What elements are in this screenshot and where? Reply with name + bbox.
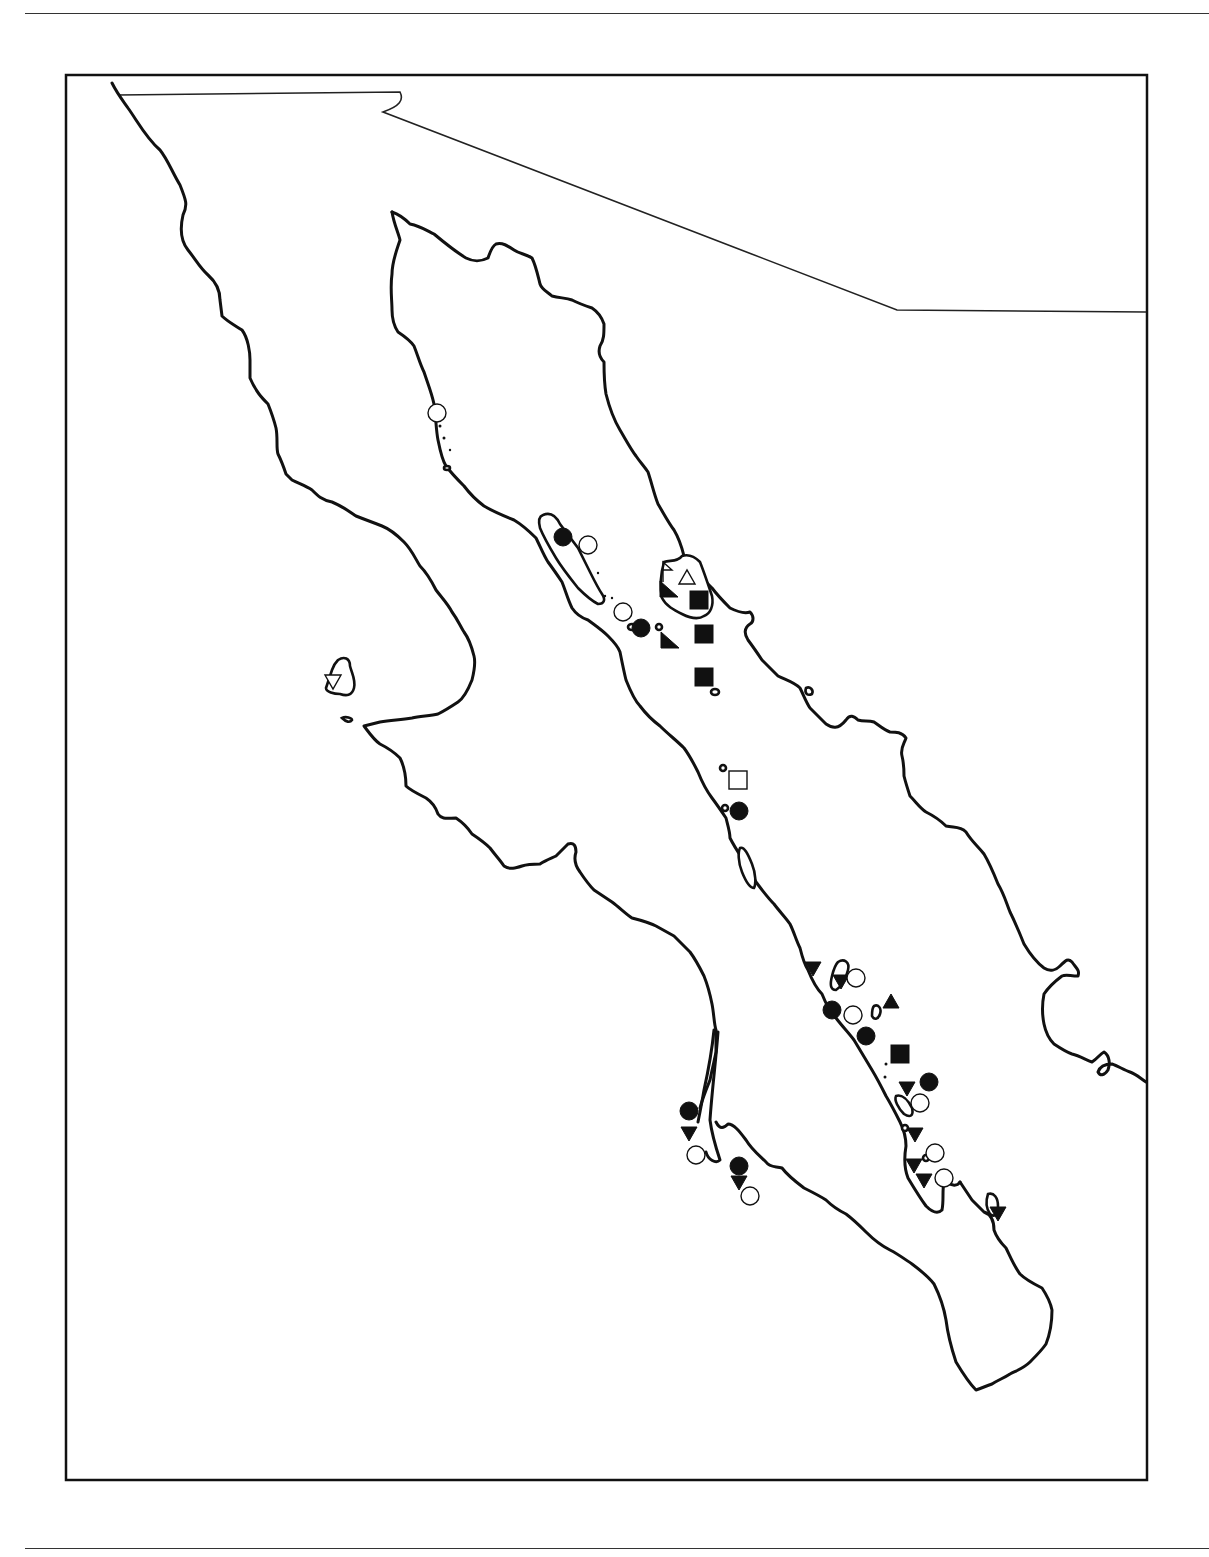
isla-small-b [720, 765, 726, 771]
filled-inverted-triangle-marker-icon [899, 1082, 915, 1096]
isla-small-f [444, 466, 450, 470]
filled-circle-marker-icon [632, 619, 650, 637]
open-circle-marker-icon [428, 404, 446, 422]
filled-circle-marker-icon [920, 1073, 938, 1091]
filled-inverted-triangle-marker-icon [907, 1128, 923, 1142]
islet-dot [611, 597, 613, 599]
filled-circle-marker-icon [730, 802, 748, 820]
filled-circle-marker-icon [857, 1027, 875, 1045]
filled-square-marker-icon [891, 1045, 909, 1063]
filled-triangle-marker-icon [883, 994, 899, 1008]
islet-dot [443, 437, 446, 440]
filled-circle-marker-icon [823, 1001, 841, 1019]
isla-angel-de-la-guarda [539, 514, 604, 604]
magdalena-barrier-island [698, 1030, 720, 1162]
peninsula-south-coast [716, 1122, 1052, 1390]
islet-dot [885, 1063, 888, 1066]
open-circle-marker-icon [687, 1146, 705, 1164]
map-frame [66, 75, 1147, 1480]
islet-dot [884, 1076, 887, 1079]
filled-inverted-triangle-marker-icon [916, 1174, 932, 1188]
map-canvas [0, 0, 1209, 1557]
open-square-marker-icon [729, 771, 747, 789]
islet-dot [604, 595, 606, 597]
isla-small-e [656, 624, 662, 630]
mainland-coastline [392, 212, 1146, 1082]
isla-san-esteban [805, 687, 812, 694]
filled-square-marker-icon [695, 668, 713, 686]
filled-inverted-triangle-marker-icon [681, 1127, 697, 1141]
isla-small-c [722, 805, 728, 811]
pacific-coastline [112, 83, 716, 1108]
filled-circle-marker-icon [730, 1157, 748, 1175]
isla-small-a [711, 689, 719, 695]
open-circle-marker-icon [847, 969, 865, 987]
open-circle-marker-icon [741, 1187, 759, 1205]
international-border [118, 92, 1146, 312]
open-circle-marker-icon [926, 1144, 944, 1162]
open-circle-marker-icon [911, 1094, 929, 1112]
open-circle-marker-icon [844, 1006, 862, 1024]
peninsula-gulf-coastline [391, 212, 960, 1212]
open-circle-marker-icon [614, 603, 632, 621]
isla-san-jose [895, 1096, 912, 1116]
filled-square-marker-icon [690, 591, 708, 609]
isla-san-marcos [739, 848, 756, 888]
islet-dot [597, 572, 599, 574]
filled-circle-marker-icon [554, 528, 572, 546]
filled-inverted-triangle-marker-icon [731, 1176, 747, 1190]
open-circle-marker-icon [935, 1169, 953, 1187]
filled-square-marker-icon [695, 625, 713, 643]
filled-circle-marker-icon [680, 1102, 698, 1120]
isla-monserrat [872, 1005, 881, 1018]
islet-dot [439, 425, 442, 428]
filled-inverted-triangle-marker-icon [906, 1159, 922, 1173]
filled-triangle-right-marker-icon [661, 632, 679, 648]
isla-natividad [342, 717, 352, 722]
islet-dot [449, 449, 451, 451]
open-circle-marker-icon [579, 536, 597, 554]
